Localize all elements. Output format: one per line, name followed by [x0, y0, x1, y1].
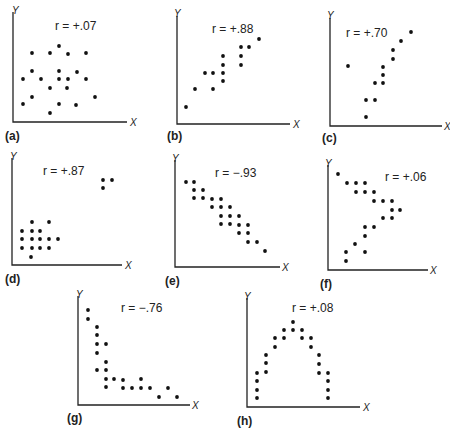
data-point	[221, 63, 225, 67]
x-axis-label: X	[191, 400, 199, 411]
data-point	[221, 71, 225, 75]
data-point	[95, 325, 99, 329]
data-point	[390, 208, 394, 212]
data-point	[47, 220, 51, 224]
data-point	[372, 225, 376, 229]
x-axis-label: X	[292, 119, 300, 130]
panel-label: (a)	[5, 129, 20, 143]
data-point	[30, 220, 34, 224]
data-point	[47, 237, 51, 241]
data-point	[193, 87, 197, 91]
data-point	[317, 362, 321, 366]
data-point	[66, 77, 70, 81]
scatter-panel-h: YXr = +.08(h)	[237, 291, 370, 428]
data-point	[157, 395, 161, 399]
data-point	[317, 371, 321, 375]
data-point	[104, 360, 108, 364]
data-point	[104, 368, 108, 372]
data-point	[110, 178, 114, 182]
data-point	[228, 214, 232, 218]
scatter-panel-d: YXr = +.87(d)	[5, 151, 132, 286]
scatter-panel-c: YXr = +.70(c)	[322, 10, 450, 145]
data-point	[219, 214, 223, 218]
x-axis-label: X	[129, 117, 137, 128]
data-point	[263, 249, 267, 253]
data-point	[363, 225, 367, 229]
data-point	[326, 396, 330, 400]
data-point	[95, 351, 99, 355]
data-point	[192, 180, 196, 184]
data-point	[291, 328, 295, 332]
data-point	[345, 181, 349, 185]
data-point	[112, 377, 116, 381]
data-point	[121, 386, 125, 390]
data-point	[309, 336, 313, 340]
data-point	[21, 77, 25, 81]
data-point	[282, 336, 286, 340]
data-point	[354, 190, 358, 194]
x-axis-label: X	[443, 121, 450, 132]
data-point	[219, 205, 223, 209]
data-point	[246, 223, 250, 227]
data-point	[246, 231, 250, 235]
data-point	[30, 237, 34, 241]
data-point	[255, 396, 259, 400]
data-point	[373, 81, 377, 85]
data-point	[221, 79, 225, 83]
x-axis-label: X	[362, 402, 370, 413]
data-point	[184, 180, 188, 184]
data-point	[104, 377, 108, 381]
data-point	[273, 345, 277, 349]
data-point	[239, 45, 243, 49]
data-point	[239, 54, 243, 58]
data-point	[38, 237, 42, 241]
data-point	[210, 205, 214, 209]
data-point	[255, 371, 259, 375]
data-point	[38, 246, 42, 250]
data-point	[30, 95, 34, 99]
data-point	[201, 188, 205, 192]
y-axis-label: Y	[10, 151, 18, 162]
data-point	[48, 111, 52, 115]
x-axis-label: X	[281, 262, 289, 273]
correlation-annotation: r = +.70	[346, 26, 388, 40]
data-point	[372, 190, 376, 194]
data-point	[20, 246, 24, 250]
data-point	[363, 190, 367, 194]
data-point	[86, 317, 90, 321]
correlation-annotation: r = −.76	[121, 301, 163, 315]
data-point	[247, 45, 251, 49]
y-axis-label: Y	[172, 153, 180, 164]
y-axis-label: Y	[325, 158, 333, 169]
y-axis-label: Y	[327, 10, 335, 21]
panel-label: (c)	[322, 131, 337, 145]
data-point	[409, 30, 413, 34]
data-point	[139, 377, 143, 381]
data-point	[317, 353, 321, 357]
data-point	[364, 115, 368, 119]
data-point	[30, 246, 34, 250]
data-point	[363, 181, 367, 185]
data-point	[264, 370, 268, 374]
data-point	[237, 231, 241, 235]
panel-label: (d)	[5, 272, 20, 286]
data-point	[228, 205, 232, 209]
data-point	[95, 368, 99, 372]
correlation-scatter-figure: YXr = +.07(a)YXr = +.88(b)YXr = +.70(c)Y…	[0, 0, 450, 430]
data-point	[47, 246, 51, 250]
data-point	[390, 199, 394, 203]
data-point	[364, 98, 368, 102]
data-point	[221, 54, 225, 58]
data-point	[184, 105, 188, 109]
data-point	[309, 345, 313, 349]
data-point	[48, 86, 52, 90]
data-point	[39, 77, 43, 81]
panel-label: (f)	[320, 277, 332, 291]
panel-label: (e)	[165, 274, 180, 288]
data-point	[101, 186, 105, 190]
data-point	[237, 214, 241, 218]
correlation-annotation: r = −.93	[215, 166, 257, 180]
data-point	[353, 242, 357, 246]
data-point	[20, 229, 24, 233]
data-point	[192, 188, 196, 192]
